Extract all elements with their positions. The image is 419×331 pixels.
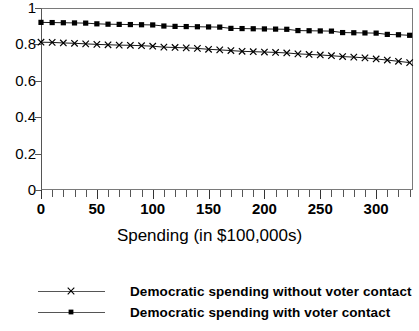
square-marker-icon <box>128 22 133 27</box>
square-marker-icon <box>374 31 379 36</box>
square-marker-icon <box>150 22 155 27</box>
square-marker-icon <box>228 26 233 31</box>
square-marker-icon <box>295 28 300 33</box>
square-marker-icon <box>239 26 244 31</box>
square-marker-icon <box>38 20 43 25</box>
square-marker-icon <box>195 24 200 29</box>
series-with-voter-contact <box>38 20 412 38</box>
square-marker-icon <box>307 28 312 33</box>
square-marker-icon <box>396 32 401 37</box>
square-marker-icon <box>206 24 211 29</box>
chart-figure: 00.20.40.60.81 050100150200250300 Spendi… <box>0 0 419 331</box>
square-marker-icon <box>117 22 122 27</box>
legend-label-without-voter-contact: Democratic spending without voter contac… <box>130 284 412 299</box>
square-marker-icon <box>83 21 88 26</box>
square-marker-icon <box>72 20 77 25</box>
legend-key-x <box>38 285 105 299</box>
square-marker-icon <box>340 30 345 35</box>
square-marker-icon <box>184 24 189 29</box>
square-marker-icon <box>385 32 390 37</box>
square-marker-icon <box>262 26 267 31</box>
square-marker-icon <box>251 26 256 31</box>
legend-item-with-voter-contact: Democratic spending with voter contact <box>0 302 419 323</box>
legend-item-without-voter-contact: Democratic spending without voter contac… <box>0 281 419 302</box>
series-without-voter-contact <box>38 39 413 66</box>
square-marker-icon <box>161 23 166 28</box>
legend-key-square <box>38 306 105 320</box>
square-marker-icon <box>94 21 99 26</box>
square-marker-icon <box>273 27 278 32</box>
square-marker-icon <box>318 28 323 33</box>
chart-legend: Democratic spending without voter contac… <box>0 281 419 323</box>
legend-label-with-voter-contact: Democratic spending with voter contact <box>130 305 390 320</box>
square-marker-icon <box>407 33 412 38</box>
square-marker-icon <box>172 24 177 29</box>
square-marker-icon <box>284 27 289 32</box>
square-marker-icon <box>105 22 110 27</box>
square-marker-icon <box>217 25 222 30</box>
square-marker-icon <box>50 20 55 25</box>
square-marker-icon <box>362 30 367 35</box>
square-marker-icon <box>139 22 144 27</box>
square-marker-icon <box>61 20 66 25</box>
square-marker-icon <box>67 308 75 316</box>
square-marker-icon <box>329 29 334 34</box>
x-marker-icon <box>67 287 75 295</box>
x-axis-title: Spending (in $100,000s) <box>0 226 419 246</box>
square-marker-icon <box>351 30 356 35</box>
